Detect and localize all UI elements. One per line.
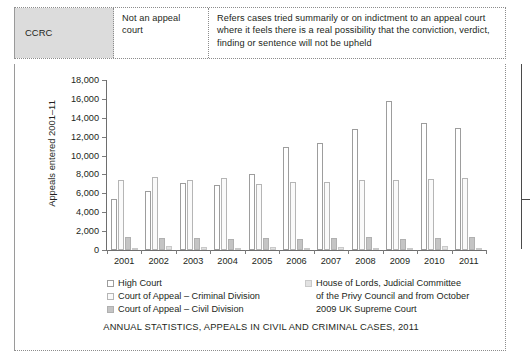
bar [435,238,441,250]
bar [132,248,138,250]
y-axis-tick-label: 2,000 [47,227,99,236]
figure-caption: ANNUAL STATISTICS, APPEALS IN CIVIL AND … [15,322,507,332]
bar [421,123,427,250]
legend-column-right: House of Lords, Judicial Committee of th… [305,277,469,317]
bar [145,191,151,250]
x-axis-tickmark [314,250,315,254]
y-axis-tickmark [102,137,106,138]
right-margin-tick [521,199,530,200]
right-margin-rule [521,64,522,249]
y-axis-tick-label: 14,000 [47,113,99,122]
y-axis-tickmark [102,250,106,251]
bar-group [107,80,141,250]
bar-group [210,80,244,250]
bar [400,239,406,250]
bar-group [417,80,451,250]
bar [324,182,330,250]
bar [125,237,131,250]
bar-chart: Appeals entered 2001–11 18,00016,00014,0… [15,70,507,276]
x-axis-tickmark [176,250,177,254]
bar [476,248,482,250]
bar [283,147,289,250]
bar [214,185,220,250]
y-axis-tickmark [102,80,106,81]
bar [256,184,262,250]
x-axis-tickmark [107,250,108,254]
legend-label-cont-2: 2009 UK Supreme Court [305,303,469,316]
bar [393,180,399,250]
y-axis-tick-label: 4,000 [47,208,99,217]
x-axis-tickmark [486,250,487,254]
table-cell-court-status: Not an appeal court [114,8,209,58]
table-cell-code: CCRC [15,8,114,58]
y-axis-tick-label: 8,000 [47,170,99,179]
bar [428,179,434,250]
bar [152,177,158,250]
court-code-label: CCRC [25,27,52,39]
y-axis-tick-label: 18,000 [47,76,99,85]
plot-area [107,80,486,250]
bar [111,199,117,250]
legend-label: House of Lords, Judicial Committee [316,277,461,290]
bar [359,180,365,250]
y-axis-tick-label: 6,000 [47,189,99,198]
bar [407,248,413,250]
bar [235,248,241,250]
x-axis-tickmark [383,250,384,254]
legend-label-cont-1: of the Privy Council and from October [305,290,469,303]
y-axis-tickmark [102,212,106,213]
bar [352,129,358,250]
table-cell-description: Refers cases tried summarily or on indic… [209,8,505,58]
y-axis-tickmark [102,99,106,100]
y-axis-tick-label: 0 [47,246,99,255]
bar [263,238,269,250]
bar [462,178,468,250]
chart-legend: High CourtCourt of Appeal – Criminal Div… [107,277,497,319]
bar-group [279,80,313,250]
x-axis-tick-label: 2011 [449,256,489,266]
bar [221,178,227,250]
x-axis-tickmark [279,250,280,254]
table-row: CCRC Not an appeal court Refers cases tr… [14,7,506,59]
bar [373,248,379,250]
y-axis-tickmark [102,231,106,232]
figure-panel: Appeals entered 2001–11 18,00016,00014,0… [14,64,506,351]
bar [201,247,207,250]
legend-label: High Court [118,277,162,290]
x-axis-tickmark [417,250,418,254]
y-axis-tick-label: 12,000 [47,132,99,141]
bar [118,180,124,250]
bar [228,239,234,250]
y-axis-tickmark [102,118,106,119]
bar-group [245,80,279,250]
legend-item: Court of Appeal – Criminal Division [107,290,260,303]
bar-group [348,80,382,250]
bar [249,174,255,250]
court-table: CCRC Not an appeal court Refers cases tr… [14,7,506,59]
legend-item: Court of Appeal – Civil Division [107,303,260,316]
bar [338,247,344,250]
bar [455,128,461,250]
y-axis-tickmark [102,156,106,157]
legend-label: Court of Appeal – Civil Division [118,303,244,316]
bar [166,246,172,250]
legend-swatch-icon [107,280,114,287]
bar [187,180,193,250]
legend-column-left: High CourtCourt of Appeal – Criminal Div… [107,277,260,317]
legend-swatch-icon [107,306,114,313]
bar [386,101,392,250]
bar-group [176,80,210,250]
y-axis-tick-label: 16,000 [47,94,99,103]
x-axis-tickmark [210,250,211,254]
bar [159,238,165,250]
x-axis-tickmark [348,250,349,254]
y-axis-tickmark [102,174,106,175]
bar [290,182,296,250]
bar [297,239,303,250]
bar [304,248,310,250]
bar-group [141,80,175,250]
bar [180,183,186,250]
legend-item-house-of-lords: House of Lords, Judicial Committee [305,277,469,290]
bar [442,246,448,250]
bar-group [383,80,417,250]
